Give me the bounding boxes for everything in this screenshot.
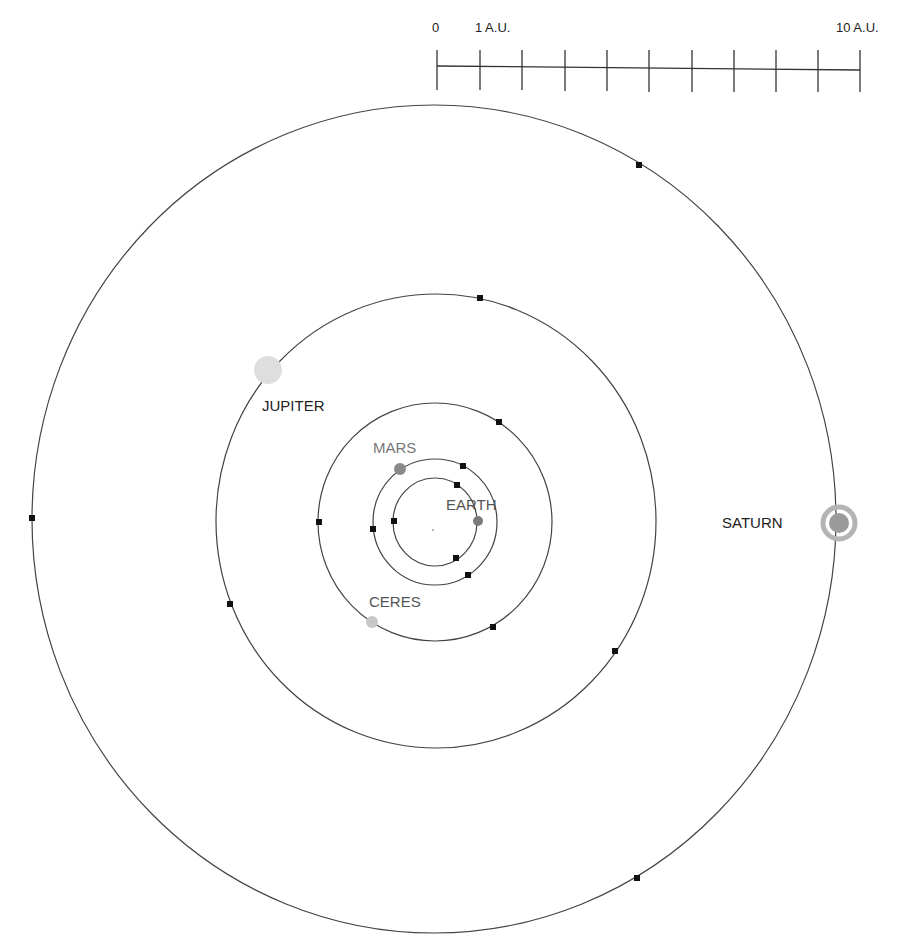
jupiter-orbit <box>216 294 656 748</box>
saturn-label: SATURN <box>722 514 783 531</box>
mars-planet <box>394 463 406 475</box>
earth-label: EARTH <box>446 496 497 513</box>
position-markers <box>29 162 642 881</box>
jupiter-label: JUPITER <box>262 397 325 414</box>
ceres-label: CERES <box>369 593 421 610</box>
ceres-planet <box>366 616 378 628</box>
saturn-planet <box>823 507 855 539</box>
scale-label-zero: 0 <box>432 20 439 35</box>
mars-label: MARS <box>373 439 416 456</box>
solar-system-diagram <box>0 0 907 947</box>
saturn-orbit <box>32 105 836 933</box>
saturn-body <box>829 513 849 533</box>
sun-center <box>432 529 434 531</box>
ceres-orbit <box>318 403 552 641</box>
earth-orbit <box>393 478 477 566</box>
jupiter-planet <box>254 356 282 384</box>
scale-bar <box>437 50 860 92</box>
scale-label-one-au: 1 A.U. <box>475 20 510 35</box>
scale-label-ten-au: 10 A.U. <box>836 20 879 35</box>
earth-planet <box>473 516 483 526</box>
